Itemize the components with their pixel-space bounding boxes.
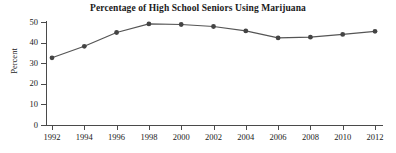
data-point-marker [147,22,152,27]
series-markers [50,22,378,61]
data-point-marker [243,29,248,34]
data-point-marker [50,55,55,60]
data-point-marker [276,36,281,41]
data-point-marker [82,44,87,49]
data-point-marker [373,29,378,34]
data-series-layer [0,0,396,153]
data-point-marker [179,22,184,27]
data-point-marker [211,24,216,29]
data-point-marker [114,30,119,35]
chart-screenshot: Percentage of High School Seniors Using … [0,0,396,153]
plot-area: Percent 01020304050 19921994199619982000… [0,0,396,153]
series-line [52,24,375,58]
data-point-marker [308,35,313,40]
data-point-marker [340,32,345,37]
